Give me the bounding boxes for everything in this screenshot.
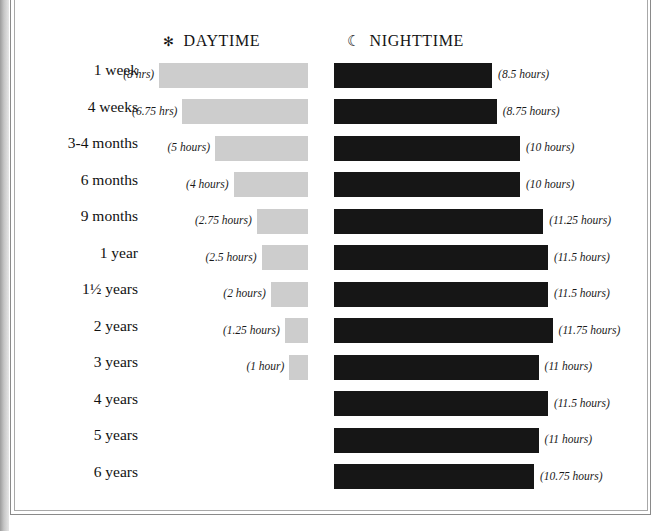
moon-icon: ☾ [347, 34, 361, 49]
chart-row: 1 week(8 hrs)(8.5 hours) [16, 57, 644, 93]
nighttime-bar [334, 282, 548, 307]
nighttime-value-label: (8.75 hours) [503, 106, 560, 118]
daytime-bar-group: (5 hours) [16, 135, 308, 161]
nighttime-bar [334, 464, 534, 489]
nighttime-value-label: (11.5 hours) [554, 252, 610, 264]
legend-nighttime: ☾ NIGHTTIME [347, 30, 464, 52]
daytime-bar [182, 99, 308, 124]
nighttime-bar-group: (10.75 hours) [334, 464, 603, 490]
nighttime-bar [334, 209, 543, 234]
daytime-value-label: (8 hrs) [123, 69, 154, 81]
nighttime-bar [334, 391, 548, 416]
daytime-bar-group: (1.25 hours) [16, 318, 308, 344]
daytime-value-label: (2.5 hours) [205, 252, 256, 264]
daytime-bar [271, 282, 308, 307]
daytime-bar-group: (4 hours) [16, 172, 308, 198]
nighttime-bar-group: (11.5 hours) [334, 281, 610, 307]
daytime-bar-group: (2 hours) [16, 281, 308, 307]
nighttime-bar [334, 172, 520, 197]
chart-row: 4 weeks(6.75 hrs)(8.75 hours) [16, 94, 644, 130]
sun-icon: ✻ [163, 35, 175, 48]
nighttime-value-label: (11.25 hours) [549, 215, 611, 227]
daytime-value-label: (4 hours) [186, 179, 229, 191]
daytime-bar-group: (8 hrs) [16, 62, 308, 88]
nighttime-value-label: (8.5 hours) [498, 69, 549, 81]
daytime-bar [257, 209, 308, 234]
chart-row: 3 years(1 hour)(11 hours) [16, 349, 644, 385]
nighttime-value-label: (11.5 hours) [554, 398, 610, 410]
nighttime-bar [334, 355, 539, 380]
nighttime-bar-group: (11 hours) [334, 427, 592, 453]
sleep-chart-page: ✻ DAYTIME ☾ NIGHTTIME 1 week(8 hrs)(8.5 … [0, 0, 664, 531]
daytime-value-label: (6.75 hrs) [132, 106, 177, 118]
daytime-bar [262, 245, 309, 270]
daytime-value-label: (5 hours) [168, 142, 211, 154]
nighttime-bar-group: (11 hours) [334, 354, 592, 380]
nighttime-bar-group: (10 hours) [334, 172, 574, 198]
chart-row: 1 year(2.5 hours)(11.5 hours) [16, 240, 644, 276]
daytime-bar [215, 136, 308, 161]
nighttime-value-label: (10.75 hours) [540, 471, 603, 483]
nighttime-bar [334, 63, 492, 88]
daytime-bar-group: (1 hour) [16, 354, 308, 380]
nighttime-bar [334, 136, 520, 161]
nighttime-value-label: (11 hours) [545, 361, 592, 373]
chart-row: 2 years(1.25 hours)(11.75 hours) [16, 313, 644, 349]
daytime-bar-group [16, 427, 308, 453]
nighttime-bar [334, 318, 553, 343]
daytime-bar-group: (6.75 hrs) [16, 99, 308, 125]
nighttime-bar-group: (11.5 hours) [334, 391, 610, 417]
daytime-bar [285, 318, 308, 343]
legend-daytime: ✻ DAYTIME [163, 30, 260, 52]
chart-row: 4 years(11.5 hours) [16, 386, 644, 422]
nighttime-bar-group: (11.5 hours) [334, 245, 610, 271]
nighttime-value-label: (10 hours) [526, 142, 574, 154]
daytime-bar [234, 172, 308, 197]
nighttime-bar [334, 99, 497, 124]
daytime-bar-group [16, 464, 308, 490]
chart-row: 6 months(4 hours)(10 hours) [16, 167, 644, 203]
chart-row: 3-4 months(5 hours)(10 hours) [16, 130, 644, 166]
daytime-bar-group: (2.5 hours) [16, 245, 308, 271]
daytime-value-label: (2 hours) [223, 288, 266, 300]
chart-row: 6 years(10.75 hours) [16, 459, 644, 495]
nighttime-bar-group: (10 hours) [334, 135, 574, 161]
nighttime-value-label: (11 hours) [545, 434, 592, 446]
nighttime-bar-group: (11.25 hours) [334, 208, 611, 234]
nighttime-value-label: (10 hours) [526, 179, 574, 191]
daytime-bar-group [16, 391, 308, 417]
nighttime-value-label: (11.75 hours) [559, 325, 621, 337]
daytime-value-label: (1 hour) [246, 361, 284, 373]
nighttime-bar-group: (8.75 hours) [334, 99, 560, 125]
chart-row: 1½ years(2 hours)(11.5 hours) [16, 276, 644, 312]
legend-nighttime-label: NIGHTTIME [370, 32, 464, 50]
nighttime-value-label: (11.5 hours) [554, 288, 610, 300]
daytime-bar [159, 63, 308, 88]
nighttime-bar-group: (11.75 hours) [334, 318, 620, 344]
nighttime-bar [334, 245, 548, 270]
daytime-value-label: (1.25 hours) [223, 325, 280, 337]
daytime-bar [289, 355, 308, 380]
daytime-bar-group: (2.75 hours) [16, 208, 308, 234]
legend-daytime-label: DAYTIME [184, 32, 261, 50]
daytime-value-label: (2.75 hours) [195, 215, 252, 227]
chart-row: 9 months(2.75 hours)(11.25 hours) [16, 203, 644, 239]
nighttime-bar [334, 428, 539, 453]
nighttime-bar-group: (8.5 hours) [334, 62, 549, 88]
scan-edge-shadow [0, 0, 9, 531]
chart-area: ✻ DAYTIME ☾ NIGHTTIME 1 week(8 hrs)(8.5 … [16, 0, 644, 500]
chart-row: 5 years(11 hours) [16, 422, 644, 458]
